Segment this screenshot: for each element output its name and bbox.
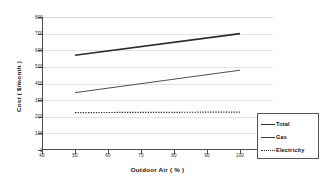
gridline-600 bbox=[43, 50, 273, 51]
legend-item-total: Total bbox=[260, 117, 318, 130]
line-chart: 800 700 600 500 400 300 200 100 0 40 50 … bbox=[0, 0, 320, 187]
x-tick-label-100: 100 bbox=[227, 153, 253, 158]
plot-top-gridline bbox=[43, 17, 273, 18]
x-tick-label-50: 50 bbox=[62, 153, 88, 158]
gridline-100 bbox=[43, 133, 273, 134]
x-tick-label-70: 70 bbox=[128, 153, 154, 158]
gridline-300 bbox=[43, 100, 273, 101]
legend-swatch-gas-icon bbox=[260, 133, 276, 141]
legend-swatch-electricity-icon bbox=[260, 146, 276, 154]
chart-legend: Total Gas Electricity bbox=[257, 113, 319, 159]
gridline-200 bbox=[43, 117, 273, 118]
legend-item-electricity: Electricity bbox=[260, 143, 318, 156]
legend-swatch-total-icon bbox=[260, 120, 276, 128]
legend-label-total: Total bbox=[276, 121, 290, 127]
gridline-700 bbox=[43, 34, 273, 35]
gridline-500 bbox=[43, 67, 273, 68]
plot-area bbox=[42, 17, 273, 150]
legend-item-gas: Gas bbox=[260, 130, 318, 143]
legend-label-electricity: Electricity bbox=[276, 147, 304, 153]
x-tick-label-60: 60 bbox=[95, 153, 121, 158]
x-tick-label-90: 90 bbox=[194, 153, 220, 158]
y-axis-title: Cost ( $/month ) bbox=[15, 17, 22, 157]
x-tick-label-40: 40 bbox=[29, 153, 55, 158]
x-axis-title: Outdoor Air ( % ) bbox=[42, 166, 273, 173]
gridline-400 bbox=[43, 84, 273, 85]
legend-label-gas: Gas bbox=[276, 134, 287, 140]
x-tick-label-80: 80 bbox=[161, 153, 187, 158]
